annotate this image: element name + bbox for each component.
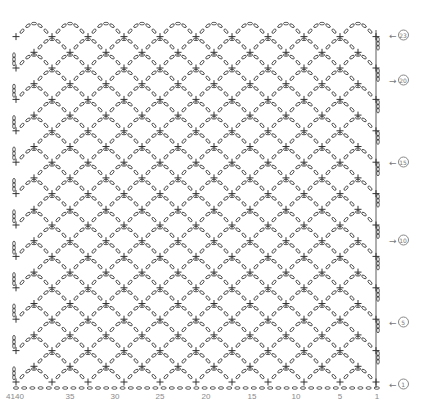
chain-symbol [367, 60, 372, 66]
chain-symbol [277, 306, 283, 311]
chain-symbol [163, 196, 169, 201]
chain-symbol [151, 342, 156, 348]
chain-symbol [343, 280, 348, 286]
chain-symbol [331, 290, 337, 295]
row-label: →20 [389, 75, 409, 86]
chain-symbol [37, 201, 42, 207]
chain-symbol [259, 321, 265, 326]
chain-symbol [194, 387, 199, 390]
chain-symbol [79, 185, 84, 191]
chain-symbol [223, 133, 229, 138]
chain-symbol [181, 149, 187, 154]
chain-symbol [325, 337, 331, 342]
chain-symbol [313, 86, 319, 91]
chain-symbol [151, 353, 157, 358]
chain-symbol [377, 45, 380, 50]
chain-symbol [161, 387, 166, 390]
chain-symbol [163, 311, 168, 317]
chain-symbol [181, 76, 186, 82]
chain-symbol [13, 92, 16, 97]
chain-symbol [55, 185, 60, 191]
chain-symbol [241, 201, 246, 207]
chain-symbol [295, 185, 300, 191]
single-crochet-symbol [265, 379, 272, 386]
chain-symbol [97, 201, 102, 207]
chain-symbol [73, 44, 78, 50]
chain-symbol [91, 91, 96, 97]
arrow-left-icon: ← [389, 157, 397, 167]
chain-symbol [361, 180, 367, 185]
chain-symbol [55, 290, 61, 295]
chain-symbol [325, 264, 330, 270]
chain-symbol [43, 259, 49, 264]
chain-symbol [127, 91, 132, 97]
chain-symbol [253, 117, 259, 122]
chain-symbol [151, 60, 156, 66]
chain-symbol [133, 306, 139, 311]
chain-symbol [163, 227, 169, 232]
chain-symbol [349, 117, 355, 122]
chain-symbol [181, 86, 187, 91]
chain-symbol [259, 164, 265, 169]
chain-symbol [253, 295, 258, 301]
chain-symbol [43, 353, 49, 358]
chain-symbol [223, 28, 228, 34]
chain-symbol [289, 212, 295, 217]
chain-symbol [43, 290, 49, 295]
chain-symbol [73, 76, 78, 82]
chain-symbol [277, 138, 282, 144]
chain-symbol [349, 107, 354, 113]
chain-symbol [97, 243, 103, 248]
chain-symbol [241, 306, 247, 311]
chain-symbol [61, 23, 67, 28]
chain-symbol [349, 233, 354, 239]
chain-symbol [218, 387, 223, 390]
chain-symbol [313, 264, 318, 270]
chain-symbol [109, 170, 114, 176]
chain-symbol [331, 280, 336, 286]
chain-symbol [241, 23, 247, 28]
chain-symbol [43, 91, 48, 97]
chain-symbol [217, 264, 222, 270]
chain-symbol [241, 233, 246, 239]
chain-symbol [145, 295, 150, 301]
chain-symbol [169, 55, 175, 60]
chain-symbol [217, 170, 222, 176]
chain-symbol [289, 201, 294, 207]
chain-symbol [169, 149, 175, 154]
chain-symbol [253, 180, 259, 185]
chain-symbol [243, 387, 248, 390]
chain-symbol [19, 248, 24, 254]
chain-symbol [61, 369, 67, 374]
chain-symbol [43, 185, 48, 191]
chain-symbol [133, 76, 138, 82]
chain-symbol [19, 217, 24, 223]
chain-symbol [361, 337, 367, 342]
chain-symbol [277, 233, 282, 239]
chain-symbol [151, 28, 156, 34]
chain-symbol [61, 243, 67, 248]
chain-symbol [271, 217, 276, 223]
chain-symbol [133, 264, 138, 270]
chain-symbol [37, 23, 43, 28]
chain-symbol [241, 76, 246, 82]
chain-symbol [349, 306, 355, 311]
chain-symbol [289, 306, 295, 311]
chain-symbol [67, 22, 72, 25]
chain-symbol [241, 369, 247, 374]
chain-symbol [109, 358, 114, 364]
chain-symbol [163, 280, 168, 286]
chain-symbol [271, 164, 277, 169]
chain-symbol [115, 102, 121, 107]
chain-symbol [55, 259, 61, 264]
chain-symbol [205, 149, 211, 154]
chain-symbol [151, 91, 156, 97]
chain-symbol [199, 311, 204, 317]
chain-symbol [73, 201, 78, 207]
chain-symbol [199, 154, 204, 160]
chain-symbol [169, 358, 174, 364]
chain-symbol [223, 259, 229, 264]
chain-symbol [133, 149, 139, 154]
chain-symbol [331, 217, 336, 223]
chain-symbol [295, 353, 301, 358]
